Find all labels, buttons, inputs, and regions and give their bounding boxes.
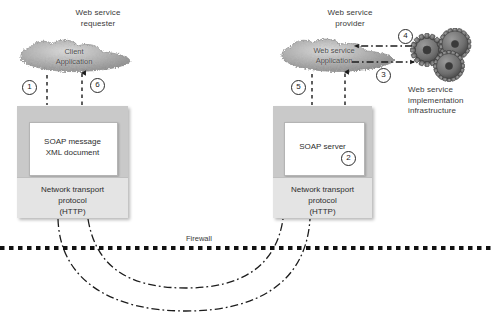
step-number-4: 4: [398, 29, 413, 44]
gears-icon: [410, 28, 476, 82]
provider-protocol-stack: SOAP server Network transport protocol (…: [273, 106, 372, 218]
web-service-requester-title: Web service requester: [38, 8, 158, 29]
soap-message-label: SOAP message XML document: [17, 136, 128, 158]
requester-network-transport-label: Network transport protocol (HTTP): [17, 184, 128, 217]
web-service-application-cloud-label: Web service Application: [294, 46, 374, 66]
web-service-provider-title: Web service provider: [290, 8, 410, 29]
web-service-architecture-diagram: Web service requester Web service provid…: [0, 0, 491, 327]
firewall-label: Firewall: [186, 234, 212, 243]
step-number-1: 1: [22, 80, 37, 95]
tunnel-arc-inner: [88, 219, 283, 288]
soap-server-label: SOAP server: [273, 141, 372, 152]
implementation-infrastructure-label: Web service implementation infrastructur…: [408, 85, 488, 117]
client-application-cloud-label: Client Application: [36, 47, 112, 67]
provider-network-transport-label: Network transport protocol (HTTP): [273, 184, 372, 217]
client-application-cloud: Client Application: [14, 36, 134, 78]
step-number-3: 3: [376, 68, 391, 83]
step-number-5: 5: [291, 80, 306, 95]
tunnel-arc-outer: [58, 219, 310, 311]
step-number-6: 6: [90, 78, 105, 93]
requester-protocol-stack: SOAP message XML document Network transp…: [17, 106, 128, 218]
step-number-2: 2: [341, 151, 356, 166]
